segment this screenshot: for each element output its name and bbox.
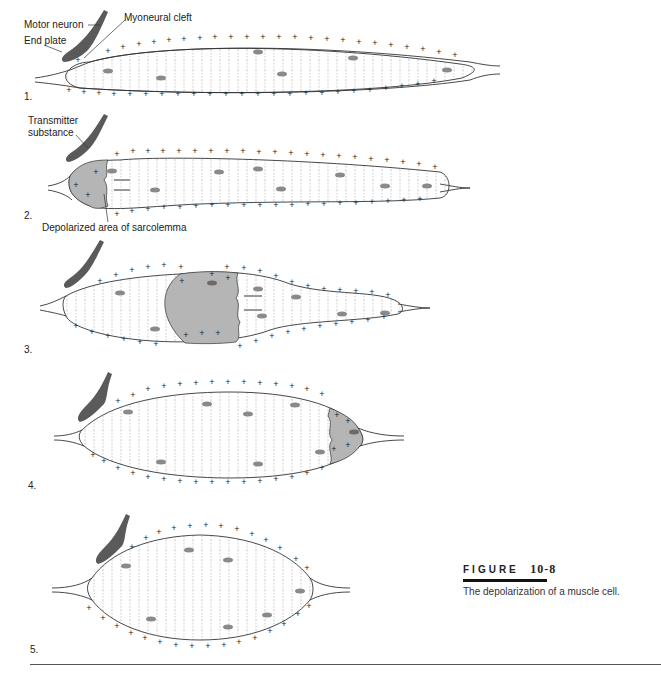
- svg-text:+: +: [129, 542, 134, 552]
- svg-text:+: +: [73, 180, 78, 190]
- svg-text:+: +: [115, 463, 120, 473]
- svg-text:+: +: [145, 262, 150, 272]
- svg-text:+: +: [145, 146, 150, 156]
- figure-number: 10-8: [530, 562, 556, 576]
- svg-text:+: +: [203, 520, 208, 530]
- svg-text:+: +: [436, 47, 441, 57]
- svg-text:+: +: [193, 201, 198, 211]
- svg-text:+: +: [129, 265, 134, 275]
- svg-text:+: +: [369, 197, 374, 207]
- svg-text:+: +: [257, 378, 262, 388]
- svg-text:+: +: [319, 88, 324, 98]
- svg-text:+: +: [115, 396, 120, 406]
- svg-text:+: +: [221, 640, 226, 650]
- svg-text:+: +: [93, 167, 98, 177]
- svg-text:+: +: [304, 149, 309, 159]
- svg-text:+: +: [113, 270, 118, 280]
- svg-text:+: +: [153, 339, 158, 349]
- svg-text:+: +: [225, 377, 230, 387]
- svg-text:+: +: [255, 89, 260, 99]
- svg-text:+: +: [142, 633, 147, 643]
- svg-text:+: +: [114, 621, 119, 631]
- svg-text:+: +: [193, 378, 198, 388]
- svg-text:+: +: [209, 377, 214, 387]
- panel-number-1: 1.: [24, 91, 32, 102]
- svg-text:+: +: [305, 281, 310, 291]
- label-end-plate: End plate: [24, 35, 67, 46]
- svg-text:+: +: [90, 450, 95, 460]
- panel-number-4: 4.: [28, 480, 36, 491]
- svg-text:+: +: [267, 626, 272, 636]
- panel-5: +++++++++++++ ++++++++++++++++ 5.: [30, 514, 350, 655]
- svg-text:+: +: [156, 527, 161, 537]
- page-rule: [30, 664, 661, 665]
- svg-text:+: +: [209, 200, 214, 210]
- svg-text:+: +: [320, 150, 325, 160]
- label-depolarized-area: Depolarized area of sarcolemma: [42, 222, 187, 233]
- svg-text:+: +: [97, 276, 102, 286]
- panel-1: ++++++++++++++++++++++++ +++++++++++++++…: [24, 10, 500, 102]
- svg-text:+: +: [161, 202, 166, 212]
- svg-text:+: +: [352, 152, 357, 162]
- svg-text:+: +: [336, 151, 341, 161]
- svg-text:+: +: [177, 476, 182, 486]
- svg-text:+: +: [295, 609, 300, 619]
- svg-text:+: +: [353, 286, 358, 296]
- svg-text:+: +: [319, 463, 324, 473]
- svg-text:+: +: [166, 35, 171, 45]
- svg-text:+: +: [130, 390, 135, 400]
- svg-text:+: +: [253, 336, 258, 346]
- svg-text:+: +: [321, 199, 326, 209]
- svg-text:+: +: [305, 199, 310, 209]
- svg-text:+: +: [121, 334, 126, 344]
- svg-text:+: +: [345, 416, 350, 426]
- panel-3: +++++++++++++++++ ++++++ +++++++++++++++…: [24, 240, 430, 355]
- svg-text:+: +: [256, 147, 261, 157]
- svg-text:+: +: [100, 613, 105, 623]
- svg-text:+: +: [277, 543, 282, 553]
- svg-text:+: +: [225, 273, 230, 283]
- svg-text:+: +: [241, 377, 246, 387]
- svg-text:+: +: [157, 637, 162, 647]
- svg-text:+: +: [161, 260, 166, 270]
- figure-caption: FIGURE 10-8 The depolarization of a musc…: [463, 562, 653, 597]
- svg-text:+: +: [224, 146, 229, 156]
- svg-text:+: +: [287, 89, 292, 99]
- svg-text:+: +: [292, 32, 297, 42]
- svg-text:+: +: [192, 146, 197, 156]
- svg-text:+: +: [281, 619, 286, 629]
- svg-text:+: +: [340, 35, 345, 45]
- svg-text:+: +: [171, 523, 176, 533]
- svg-text:+: +: [257, 200, 262, 210]
- svg-text:+: +: [241, 477, 246, 487]
- svg-text:+: +: [151, 37, 156, 47]
- svg-text:+: +: [368, 154, 373, 164]
- svg-text:+: +: [96, 88, 101, 98]
- svg-text:+: +: [187, 521, 192, 531]
- svg-text:+: +: [101, 456, 106, 466]
- svg-text:+: +: [288, 148, 293, 158]
- label-transmitter-line2: substance: [28, 127, 74, 138]
- svg-text:+: +: [308, 33, 313, 43]
- svg-text:+: +: [128, 628, 133, 638]
- svg-text:+: +: [225, 200, 230, 210]
- svg-text:+: +: [145, 384, 150, 394]
- svg-text:+: +: [385, 290, 390, 300]
- svg-text:+: +: [73, 321, 78, 331]
- svg-text:+: +: [257, 476, 262, 486]
- svg-text:+: +: [130, 468, 135, 478]
- svg-text:+: +: [129, 206, 134, 216]
- svg-text:+: +: [85, 190, 90, 200]
- svg-text:+: +: [400, 157, 405, 167]
- svg-text:+: +: [120, 42, 125, 52]
- svg-text:+: +: [383, 83, 388, 93]
- svg-text:+: +: [349, 317, 354, 327]
- svg-text:+: +: [114, 149, 119, 159]
- svg-text:+: +: [136, 39, 141, 49]
- svg-text:+: +: [225, 477, 230, 487]
- svg-text:+: +: [353, 198, 358, 208]
- svg-text:+: +: [401, 195, 406, 205]
- svg-text:+: +: [89, 327, 94, 337]
- svg-text:+: +: [173, 640, 178, 650]
- svg-text:+: +: [372, 38, 377, 48]
